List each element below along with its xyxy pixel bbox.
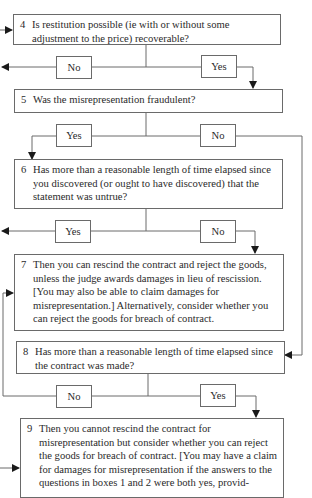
box-text: Is restitution possible (ie with or with…	[32, 19, 229, 44]
answer-yes-q8: Yes	[200, 384, 236, 407]
answer-yes-q5: Yes	[56, 124, 92, 147]
answer-no-q6: No	[200, 220, 236, 243]
box-number: 7	[21, 258, 26, 272]
answer-no-q4: No	[56, 56, 92, 79]
box-9-cannot-rescind-outcome: 9 Then you cannot rescind the contract f…	[20, 418, 284, 498]
box-7-rescind-outcome: 7 Then you can rescind the contract and …	[14, 254, 284, 331]
box-6-time-since-discovery-question: 6 Has more than a reasonable length of t…	[14, 159, 283, 209]
box-8-time-since-contract-question: 8 Has more than a reasonable length of t…	[16, 341, 285, 374]
box-number: 8	[23, 345, 28, 359]
box-number: 5	[21, 93, 26, 107]
box-text: Then you can rescind the contract and re…	[33, 259, 268, 324]
answer-yes-q6: Yes	[55, 220, 91, 243]
box-number: 6	[21, 163, 26, 177]
box-4-restitution-question: 4 Is restitution possible (ie with or wi…	[13, 14, 281, 45]
answer-no-q8: No	[56, 385, 92, 408]
box-number: 9	[27, 422, 32, 436]
answer-yes-q4: Yes	[201, 55, 237, 78]
box-text: Has more than a reasonable length of tim…	[33, 164, 271, 202]
box-text: Then you cannot rescind the contract for…	[39, 423, 277, 488]
box-text: Has more than a reasonable length of tim…	[35, 346, 273, 371]
box-5-fraud-question: 5 Was the misrepresentation fraudulent?	[14, 89, 283, 113]
answer-no-q5: No	[200, 124, 236, 147]
box-number: 4	[20, 18, 25, 32]
box-text: Was the misrepresentation fraudulent?	[33, 94, 195, 105]
